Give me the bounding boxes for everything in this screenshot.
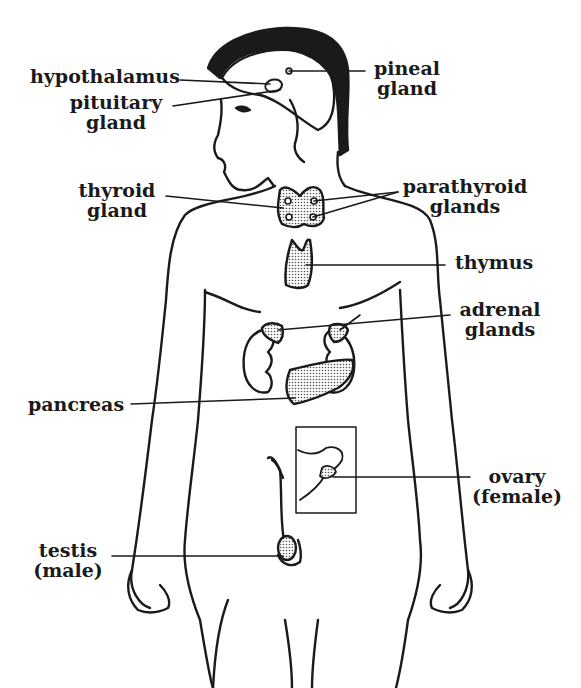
- label-parathyroid-glands: parathyroid glands: [400, 176, 530, 216]
- leader-pituitary: [173, 90, 280, 106]
- face-profile: [214, 100, 274, 190]
- label-pineal-gland: pineal gland: [370, 58, 444, 98]
- left-shoulder-arm: [131, 186, 275, 608]
- label-pituitary-gland: pituitary gland: [60, 92, 172, 132]
- label-testis: testis (male): [32, 540, 104, 580]
- thyroid-gland: [278, 187, 324, 227]
- left-adrenal-gland: [262, 323, 283, 343]
- leader-adrenal-left: [278, 315, 450, 330]
- label-thymus: thymus: [455, 252, 533, 272]
- label-pancreas: pancreas: [28, 394, 124, 414]
- label-ovary: ovary (female): [472, 466, 562, 506]
- endocrine-diagram: hypothalamus pituitary gland pineal glan…: [0, 0, 581, 688]
- label-thyroid-gland: thyroid gland: [72, 180, 162, 220]
- leader-thyroid: [166, 196, 283, 208]
- pancreas-gland: [287, 360, 354, 404]
- label-adrenal-glands: adrenal glands: [455, 299, 545, 339]
- thymus-gland: [285, 240, 312, 288]
- label-hypothalamus: hypothalamus: [30, 66, 180, 86]
